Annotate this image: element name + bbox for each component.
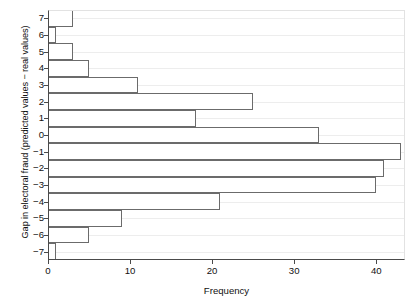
y-tick-label: 7 xyxy=(39,14,44,24)
y-tick-label: −3 xyxy=(33,180,44,190)
plot-frame xyxy=(48,10,405,260)
x-tick-label: 40 xyxy=(371,266,382,276)
plot-area: 76543210−1−2−3−4−5−6−7 010203040 xyxy=(48,10,405,260)
y-tick-label: −6 xyxy=(33,230,44,240)
x-tick-label: 10 xyxy=(125,266,136,276)
y-tick-label: −1 xyxy=(33,147,44,157)
y-tick-label: −5 xyxy=(33,214,44,224)
histogram-figure: Gap in electoral fraud (predicted values… xyxy=(0,0,414,306)
x-tick-mark xyxy=(130,260,131,264)
y-tick-label: −2 xyxy=(33,164,44,174)
x-tick-mark xyxy=(212,260,213,264)
x-tick-label: 0 xyxy=(45,266,50,276)
x-tick-mark xyxy=(376,260,377,264)
y-tick-label: −7 xyxy=(33,247,44,257)
y-axis-title: Gap in electoral fraud (predicted values… xyxy=(20,0,30,265)
x-tick-label: 20 xyxy=(207,266,218,276)
x-tick-mark xyxy=(294,260,295,264)
y-tick-label: 3 xyxy=(39,80,44,90)
x-axis-title: Frequency xyxy=(48,285,405,296)
y-tick-label: 6 xyxy=(39,30,44,40)
y-tick-label: 0 xyxy=(39,130,44,140)
y-tick-label: 5 xyxy=(39,47,44,57)
y-tick-label: 1 xyxy=(39,114,44,124)
y-tick-label: −4 xyxy=(33,197,44,207)
x-tick-label: 30 xyxy=(289,266,300,276)
x-tick-mark xyxy=(48,260,49,264)
y-tick-label: 2 xyxy=(39,97,44,107)
y-tick-label: 4 xyxy=(39,64,44,74)
